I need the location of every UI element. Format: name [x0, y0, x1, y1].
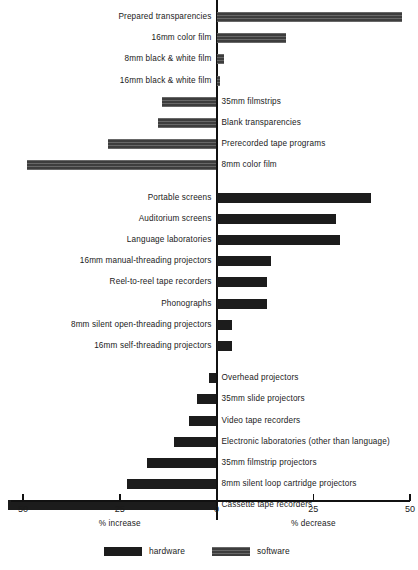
bar-category-label: 16mm color film: [0, 29, 212, 47]
bar-software: [217, 54, 225, 64]
bar-chart: Prepared transparencies16mm color film8m…: [0, 0, 418, 570]
bar-category-label: Auditorium screens: [0, 210, 212, 228]
bar-row: Portable screens: [0, 187, 418, 209]
bar-row: Overhead projectors: [0, 367, 418, 389]
bar-software: [162, 97, 216, 107]
bar-category-label: 8mm black & white film: [0, 50, 212, 68]
bar-row: 8mm silent open-threading projectors: [0, 314, 418, 336]
bar-hardware: [217, 235, 341, 245]
axis-tick-label: 50: [390, 503, 418, 515]
bar-category-label: Phonographs: [0, 295, 212, 313]
bar-hardware: [217, 214, 337, 224]
bar-category-label: 8mm color film: [222, 156, 418, 174]
bar-software: [217, 12, 403, 22]
bar-category-label: Video tape recorders: [222, 412, 418, 430]
bar-category-label: Reel-to-reel tape recorders: [0, 273, 212, 291]
bar-row: 35mm slide projectors: [0, 388, 418, 410]
legend-label-hardware: hardware: [149, 545, 185, 557]
legend-swatch-software-icon: [212, 547, 250, 556]
bar-row: Blank transparencies: [0, 112, 418, 134]
plot-area: Prepared transparencies16mm color film8m…: [0, 0, 418, 520]
bar-row: 8mm silent loop cartridge projectors: [0, 473, 418, 495]
bar-category-label: 16mm black & white film: [0, 72, 212, 90]
bar-hardware: [197, 394, 216, 404]
bar-row: 35mm filmstrip projectors: [0, 452, 418, 474]
bar-category-label: Prerecorded tape programs: [222, 135, 418, 153]
axis-tick-label: 0: [197, 503, 237, 515]
bar-category-label: Electronic laboratories (other than lang…: [222, 433, 418, 451]
axis-tick-mark: [409, 494, 411, 501]
bar-software: [27, 160, 217, 170]
bar-hardware: [217, 193, 372, 203]
bar-hardware: [217, 277, 267, 287]
bar-category-label: 8mm silent loop cartridge projectors: [222, 475, 418, 493]
bar-hardware: [217, 299, 267, 309]
legend-item-software: software: [212, 543, 290, 559]
x-axis: 502502550 % increase % decrease: [0, 494, 418, 528]
bar-row: 16mm black & white film: [0, 70, 418, 92]
bar-row: Prerecorded tape programs: [0, 133, 418, 155]
bar-row: Video tape recorders: [0, 410, 418, 432]
axis-caption-decrease: % decrease: [253, 518, 373, 530]
bar-row: Prepared transparencies: [0, 6, 418, 28]
axis-caption-increase: % increase: [60, 518, 180, 530]
bar-row: Auditorium screens: [0, 208, 418, 230]
bar-category-label: 35mm filmstrips: [222, 93, 418, 111]
bar-row: Reel-to-reel tape recorders: [0, 271, 418, 293]
bar-row: 35mm filmstrips: [0, 91, 418, 113]
bar-software: [217, 76, 221, 86]
bar-row: Electronic laboratories (other than lang…: [0, 431, 418, 453]
bar-hardware: [174, 437, 217, 447]
x-axis-line: [11, 500, 410, 502]
bar-category-label: Overhead projectors: [222, 369, 418, 387]
bar-category-label: Portable screens: [0, 189, 212, 207]
bar-row: 16mm self-threading projectors: [0, 335, 418, 357]
bar-category-label: Blank transparencies: [222, 114, 418, 132]
bar-row: Language laboratories: [0, 229, 418, 251]
bar-category-label: 35mm filmstrip projectors: [222, 454, 418, 472]
bar-category-label: Language laboratories: [0, 231, 212, 249]
bar-software: [108, 139, 216, 149]
bar-row: 8mm black & white film: [0, 48, 418, 70]
legend-swatch-hardware-icon: [104, 547, 142, 556]
bar-category-label: 35mm slide projectors: [222, 390, 418, 408]
axis-tick-mark: [22, 494, 24, 501]
bar-hardware: [147, 458, 217, 468]
axis-tick-mark: [216, 494, 218, 501]
axis-tick-mark: [313, 494, 315, 501]
bar-category-label: 16mm manual-threading projectors: [0, 252, 212, 270]
legend-item-hardware: hardware: [104, 543, 185, 559]
bar-row: 16mm color film: [0, 27, 418, 49]
axis-tick-label: 25: [293, 503, 333, 515]
bar-hardware: [217, 320, 232, 330]
bar-hardware: [189, 416, 216, 426]
axis-tick-label: 50: [3, 503, 43, 515]
bar-row: 8mm color film: [0, 154, 418, 176]
axis-tick-label: 25: [100, 503, 140, 515]
bar-category-label: 16mm self-threading projectors: [0, 337, 212, 355]
bar-hardware: [217, 256, 271, 266]
bar-software: [217, 33, 287, 43]
bar-software: [158, 118, 216, 128]
bar-hardware: [217, 341, 232, 351]
bar-category-label: Prepared transparencies: [0, 8, 212, 26]
bar-row: Phonographs: [0, 293, 418, 315]
legend-label-software: software: [257, 545, 290, 557]
bar-hardware: [127, 479, 216, 489]
chart-legend: hardware software: [0, 543, 418, 563]
bar-row: 16mm manual-threading projectors: [0, 250, 418, 272]
bar-hardware: [209, 373, 217, 383]
axis-tick-mark: [119, 494, 121, 501]
bar-category-label: 8mm silent open-threading projectors: [0, 316, 212, 334]
